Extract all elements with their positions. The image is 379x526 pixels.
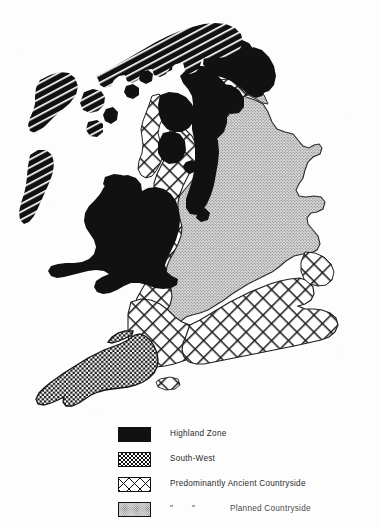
legend-swatch-highland-zone	[118, 427, 151, 442]
legend-item-south-west[interactable]: South-West	[118, 451, 215, 468]
legend-label-planned-countryside: Planned Countryside	[230, 504, 311, 513]
zone-south-west	[36, 331, 158, 406]
map-legend: Highland Zone South-West Predominantly A…	[118, 424, 368, 524]
legend-item-planned-countryside[interactable]: ""Planned Countryside	[118, 501, 311, 518]
legend-swatch-predominantly-ancient-countryside	[118, 477, 151, 492]
britain-map	[0, 0, 379, 430]
thematic-map-figure: Highland Zone South-West Predominantly A…	[0, 0, 379, 526]
ditto-mark-2: "	[192, 505, 230, 513]
legend-swatch-planned-countryside	[118, 502, 151, 517]
legend-item-highland-zone[interactable]: Highland Zone	[118, 426, 227, 443]
legend-swatch-south-west	[118, 452, 151, 467]
legend-label-predominantly-ancient-countryside: Predominantly Ancient Countryside	[170, 480, 306, 488]
legend-item-predominantly-ancient-countryside[interactable]: Predominantly Ancient Countryside	[118, 476, 306, 493]
legend-label-south-west: South-West	[170, 455, 215, 463]
legend-ditto-marks: ""Planned Countryside	[170, 505, 311, 513]
ditto-mark-1: "	[170, 505, 192, 513]
legend-label-highland-zone: Highland Zone	[170, 430, 227, 438]
